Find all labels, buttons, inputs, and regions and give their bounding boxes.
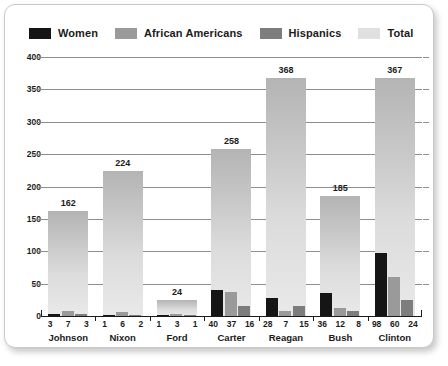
y-axis-tick-label: 0 xyxy=(15,311,41,321)
legend-label: African Americans xyxy=(144,27,243,39)
total-value-label: 24 xyxy=(172,287,182,297)
x-axis-category-label: Clinton xyxy=(368,332,422,344)
x-axis-category-label: Johnson xyxy=(41,332,95,344)
series-value-label: 8 xyxy=(349,318,367,330)
bar-group[interactable] xyxy=(41,57,95,316)
legend-item-african-americans[interactable]: African Americans xyxy=(115,27,243,39)
bar-hispanics[interactable] xyxy=(401,300,413,316)
total-value-label: 258 xyxy=(224,136,239,146)
x-axis-series-values: 28715 xyxy=(259,318,313,330)
series-value-label: 15 xyxy=(295,318,313,330)
series-value-label: 28 xyxy=(259,318,277,330)
series-value-label: 1 xyxy=(95,318,113,330)
series-value-label: 16 xyxy=(241,318,259,330)
x-axis-group: 373Johnson xyxy=(41,318,95,344)
y-axis-tick-mark-right xyxy=(423,57,429,58)
legend-item-total[interactable]: Total xyxy=(358,27,413,39)
x-axis-tick xyxy=(204,316,205,321)
series-value-label: 6 xyxy=(114,318,132,330)
x-axis-group: 28715Reagan xyxy=(259,318,313,344)
bar-women[interactable] xyxy=(320,293,332,316)
x-axis-series-values: 131 xyxy=(150,318,204,330)
bar-group[interactable] xyxy=(150,57,204,316)
x-axis-line xyxy=(41,316,422,317)
total-value-label: 368 xyxy=(278,65,293,75)
bar-african-americans[interactable] xyxy=(225,292,237,316)
x-axis-tick xyxy=(368,316,369,321)
x-axis-category-label: Nixon xyxy=(95,332,149,344)
legend-item-hispanics[interactable]: Hispanics xyxy=(260,27,342,39)
series-value-label: 7 xyxy=(277,318,295,330)
x-axis-group: 131Ford xyxy=(150,318,204,344)
y-axis-tick-mark-right xyxy=(423,187,429,188)
x-axis-series-values: 36128 xyxy=(313,318,367,330)
series-value-label: 40 xyxy=(204,318,222,330)
chart-panel: WomenAfrican AmericansHispanicsTotal 050… xyxy=(4,4,434,348)
total-value-label: 224 xyxy=(115,158,130,168)
series-value-label: 1 xyxy=(186,318,204,330)
x-axis-group: 986024Clinton xyxy=(368,318,422,344)
legend-label: Total xyxy=(387,27,413,39)
y-axis: 050100150200250300350400 xyxy=(5,57,41,316)
x-axis-tick xyxy=(313,316,314,321)
x-axis-group: 162Nixon xyxy=(95,318,149,344)
bar-african-americans[interactable] xyxy=(334,308,346,316)
x-axis-category-label: Bush xyxy=(313,332,367,344)
x-axis-cap-left xyxy=(41,310,42,316)
y-axis-tick-mark-right xyxy=(423,122,429,123)
series-value-label: 24 xyxy=(404,318,422,330)
x-axis-category-label: Carter xyxy=(204,332,258,344)
x-axis-cap-right xyxy=(421,310,422,316)
x-axis-series-values: 986024 xyxy=(368,318,422,330)
bar-total[interactable] xyxy=(48,211,88,316)
bar-hispanics[interactable] xyxy=(293,306,305,316)
bar-women[interactable] xyxy=(211,290,223,316)
y-axis-tick-mark-right xyxy=(423,284,429,285)
bar-group[interactable] xyxy=(368,57,422,316)
x-axis-category-label: Reagan xyxy=(259,332,313,344)
series-value-label: 3 xyxy=(77,318,95,330)
plot-area xyxy=(41,57,422,316)
bar-total[interactable] xyxy=(103,171,143,316)
legend-swatch-icon xyxy=(260,28,282,39)
x-axis-group: 403716Carter xyxy=(204,318,258,344)
bar-total[interactable] xyxy=(266,78,306,316)
x-axis-labels: 373Johnson162Nixon131Ford403716Carter287… xyxy=(41,318,422,348)
legend-label: Hispanics xyxy=(289,27,342,39)
series-value-label: 2 xyxy=(132,318,150,330)
series-value-label: 98 xyxy=(368,318,386,330)
y-axis-tick-mark-right xyxy=(423,154,429,155)
legend-item-women[interactable]: Women xyxy=(29,27,98,39)
x-axis-series-values: 373 xyxy=(41,318,95,330)
x-axis-category-label: Ford xyxy=(150,332,204,344)
legend-label: Women xyxy=(58,27,98,39)
bar-group[interactable] xyxy=(259,57,313,316)
series-value-label: 36 xyxy=(313,318,331,330)
y-axis-tick-mark-right xyxy=(423,219,429,220)
y-axis-right-ticks xyxy=(422,57,434,316)
x-axis-group: 36128Bush xyxy=(313,318,367,344)
series-value-label: 3 xyxy=(41,318,59,330)
y-axis-tick-mark-right xyxy=(423,251,429,252)
x-axis-tick xyxy=(95,316,96,321)
bar-group[interactable] xyxy=(204,57,258,316)
bar-hispanics[interactable] xyxy=(238,306,250,316)
series-value-label: 60 xyxy=(386,318,404,330)
bar-women[interactable] xyxy=(266,298,278,316)
legend-swatch-icon xyxy=(29,28,51,39)
series-value-label: 37 xyxy=(222,318,240,330)
bar-group[interactable] xyxy=(95,57,149,316)
legend-swatch-icon xyxy=(358,28,380,39)
legend-swatch-icon xyxy=(115,28,137,39)
chart-legend: WomenAfrican AmericansHispanicsTotal xyxy=(29,24,430,42)
x-axis-series-values: 403716 xyxy=(204,318,258,330)
bar-women[interactable] xyxy=(375,253,387,316)
series-value-label: 3 xyxy=(168,318,186,330)
total-value-label: 367 xyxy=(387,65,402,75)
total-value-label: 162 xyxy=(61,198,76,208)
series-value-label: 7 xyxy=(59,318,77,330)
bar-african-americans[interactable] xyxy=(388,277,400,316)
y-axis-tick-mark-right xyxy=(423,89,429,90)
x-axis-tick xyxy=(259,316,260,321)
x-axis-series-values: 162 xyxy=(95,318,149,330)
